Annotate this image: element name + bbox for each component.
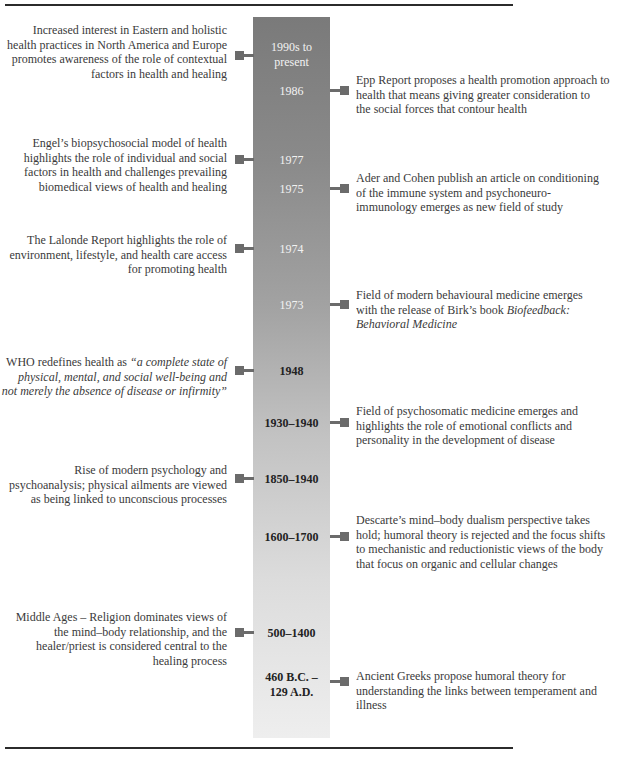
event-left-1974: The Lalonde Report highlights the role o…	[0, 233, 227, 277]
text-prefix: WHO redefines health as	[6, 355, 130, 369]
year-1948: 1948	[253, 364, 330, 379]
marker-square-icon	[340, 86, 349, 95]
year-1975: 1975	[253, 182, 330, 197]
text-line: Field of modern behavioural medicine eme…	[356, 288, 617, 303]
year-1930-1940: 1930–1940	[253, 416, 330, 431]
year-1973: 1973	[253, 298, 330, 313]
event-left-1948: WHO redefines health as “a complete stat…	[0, 355, 227, 399]
event-right-1975: Ader and Cohen publish an article on con…	[356, 171, 617, 215]
year-1986: 1986	[253, 84, 330, 99]
connector-line	[244, 54, 254, 57]
connector-right-1600-1700	[330, 532, 349, 541]
text-line: factors in health and challenges prevail…	[0, 165, 227, 180]
text-line: WHO redefines health as “a complete stat…	[0, 355, 227, 370]
year-1990s: 1990s to present	[253, 40, 330, 70]
text-line: with the release of Birk’s book Biofeedb…	[356, 303, 617, 318]
event-right-1930-1940: Field of psychosomatic medicine emerges …	[356, 404, 617, 448]
event-right-1986: Epp Report proposes a health promotion a…	[356, 73, 617, 117]
connector-line	[244, 477, 254, 480]
connector-line	[330, 680, 340, 683]
marker-square-icon	[235, 628, 244, 637]
quote-text: “a complete state of	[130, 355, 227, 369]
connector-line	[244, 631, 254, 634]
connector-line	[244, 247, 254, 250]
text-line: the social forces that contour health	[356, 102, 617, 117]
quote-text: not merely the absence of disease or inf…	[0, 384, 227, 399]
text-line: personality in the development of diseas…	[356, 433, 617, 448]
marker-square-icon	[340, 677, 349, 686]
connector-left-1977	[235, 155, 254, 164]
year-1850-1940: 1850–1940	[253, 472, 330, 487]
event-left-1977: Engel’s biopsychosocial model of health …	[0, 136, 227, 194]
text-line: of the immune system and psychoneuro-	[356, 186, 617, 201]
text-line: Descarte’s mind–body dualism perspective…	[356, 513, 617, 528]
connector-right-460bc	[330, 677, 349, 686]
year-1974: 1974	[253, 242, 330, 257]
marker-square-icon	[235, 155, 244, 164]
text-line: to mechanistic and reductionistic views …	[356, 542, 617, 557]
text-line: Engel’s biopsychosocial model of health	[0, 136, 227, 151]
text-line: Epp Report proposes a health promotion a…	[356, 73, 617, 88]
event-left-1990s: Increased interest in Eastern and holist…	[0, 23, 227, 81]
text-line: for promoting health	[0, 262, 227, 277]
event-left-1850-1940: Rise of modern psychology and psychoanal…	[0, 463, 227, 507]
text-line: Ader and Cohen publish an article on con…	[356, 171, 617, 186]
text-line: hold; humoral theory is rejected and the…	[356, 528, 617, 543]
text-line: understanding the links between temperam…	[356, 684, 617, 699]
text-line: The Lalonde Report highlights the role o…	[0, 233, 227, 248]
connector-line	[244, 369, 254, 372]
connector-line	[330, 89, 340, 92]
text-line: psychoanalysis; physical ailments are vi…	[0, 478, 227, 493]
marker-square-icon	[235, 474, 244, 483]
text-line: highlights the role of emotional conflic…	[356, 419, 617, 434]
text-line: as being linked to unconscious processes	[0, 492, 227, 507]
text-line: factors in health and healing	[0, 67, 227, 82]
marker-square-icon	[340, 418, 349, 427]
book-title: Behavioral Medicine	[356, 317, 617, 332]
connector-line	[330, 421, 340, 424]
connector-left-1850-1940	[235, 474, 254, 483]
connector-line	[330, 303, 340, 306]
text-line: healer/priest is considered central to t…	[0, 639, 227, 654]
text-prefix: with the release of Birk’s book	[356, 303, 507, 317]
connector-left-500-1400	[235, 628, 254, 637]
text-line: Middle Ages – Religion dominates views o…	[0, 610, 227, 625]
connector-left-1990s	[235, 51, 254, 60]
connector-right-1986	[330, 86, 349, 95]
year-500-1400: 500–1400	[253, 626, 330, 641]
event-right-1600-1700: Descarte’s mind–body dualism perspective…	[356, 513, 617, 571]
book-title: Biofeedback:	[507, 303, 570, 317]
connector-line	[330, 535, 340, 538]
top-rule	[5, 4, 513, 6]
connector-right-1975	[330, 184, 349, 193]
connector-right-1973	[330, 300, 349, 309]
text-line: that focus on organic and cellular chang…	[356, 557, 617, 572]
text-line: health that means giving greater conside…	[356, 88, 617, 103]
marker-square-icon	[235, 244, 244, 253]
text-line: promotes awareness of the role of contex…	[0, 52, 227, 67]
connector-left-1974	[235, 244, 254, 253]
text-line: environment, lifestyle, and health care …	[0, 248, 227, 263]
year-1600-1700: 1600–1700	[253, 530, 330, 545]
text-line: highlights the role of individual and so…	[0, 151, 227, 166]
year-1977: 1977	[253, 153, 330, 168]
event-right-1973: Field of modern behavioural medicine eme…	[356, 288, 617, 332]
text-line: Rise of modern psychology and	[0, 463, 227, 478]
event-right-460bc: Ancient Greeks propose humoral theory fo…	[356, 669, 617, 713]
text-line: the mind–body relationship, and the	[0, 625, 227, 640]
marker-square-icon	[235, 366, 244, 375]
marker-square-icon	[340, 184, 349, 193]
text-line: healing process	[0, 654, 227, 669]
bottom-rule	[5, 747, 513, 749]
text-line: illness	[356, 698, 617, 713]
text-line: health practices in North America and Eu…	[0, 38, 227, 53]
text-line: Field of psychosomatic medicine emerges …	[356, 404, 617, 419]
connector-left-1948	[235, 366, 254, 375]
text-line: biomedical views of health and healing	[0, 180, 227, 195]
marker-square-icon	[235, 51, 244, 60]
text-line: Ancient Greeks propose humoral theory fo…	[356, 669, 617, 684]
text-line: immunology emerges as new field of study	[356, 200, 617, 215]
quote-text: physical, mental, and social well-being …	[0, 370, 227, 385]
text-line: Increased interest in Eastern and holist…	[0, 23, 227, 38]
connector-line	[330, 187, 340, 190]
